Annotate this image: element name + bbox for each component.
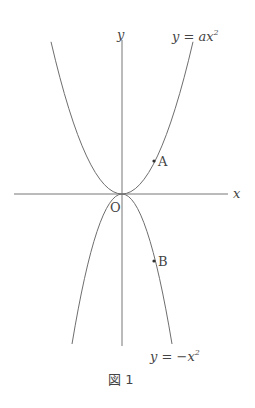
x-axis-label: x bbox=[233, 187, 240, 200]
graph-canvas bbox=[0, 0, 255, 408]
origin-label: O bbox=[110, 201, 121, 214]
figure-caption: 図 1 bbox=[108, 369, 133, 388]
y-axis-label: y bbox=[117, 28, 124, 41]
lower-curve-label: y = −x2 bbox=[150, 349, 200, 363]
point-a-dot bbox=[152, 159, 155, 162]
point-b-label: B bbox=[158, 255, 168, 268]
upper-curve-label: y = ax2 bbox=[172, 29, 219, 43]
point-b-dot bbox=[152, 259, 155, 262]
point-a-label: A bbox=[158, 155, 167, 168]
